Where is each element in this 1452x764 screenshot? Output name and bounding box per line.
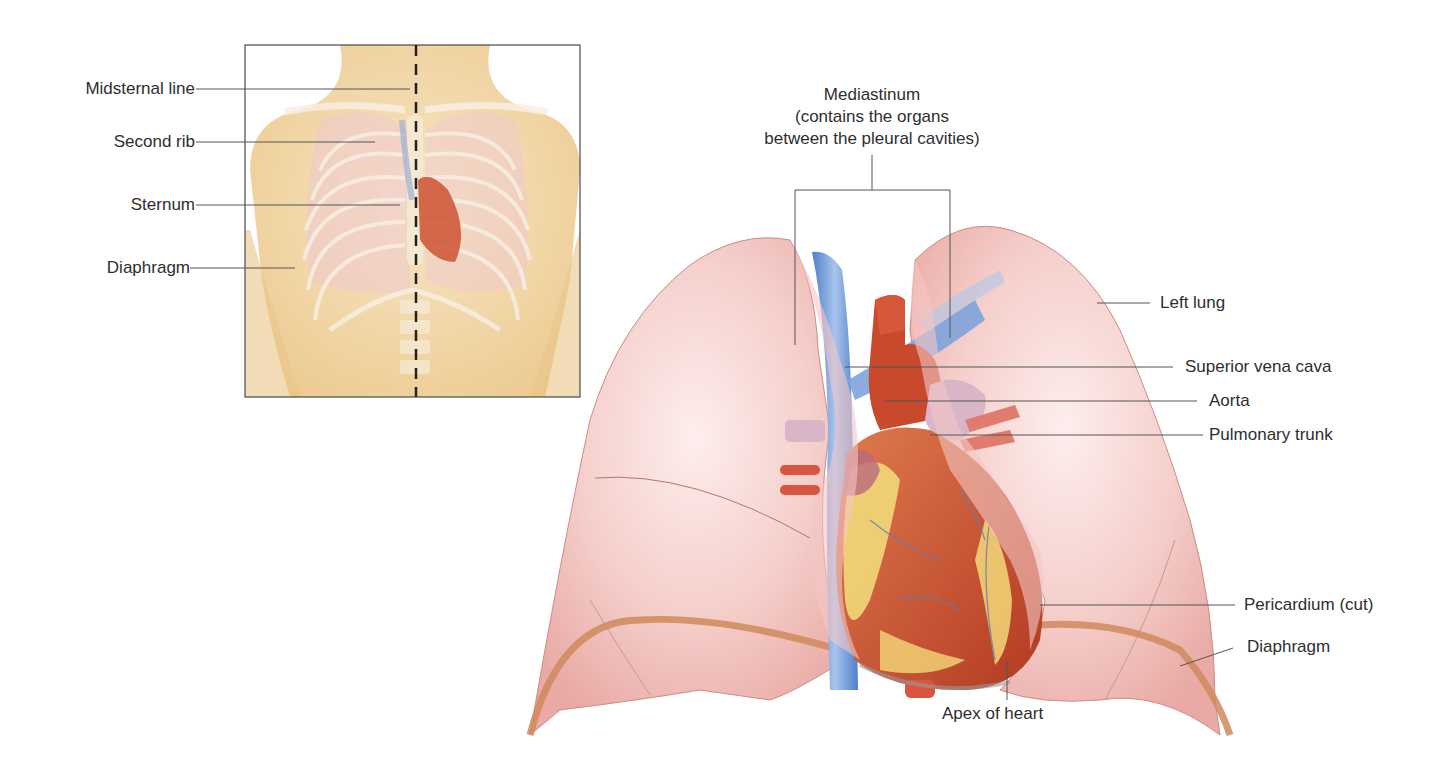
label-superior-vena-cava: Superior vena cava	[1185, 357, 1331, 377]
label-midsternal-line: Midsternal line	[85, 79, 195, 99]
label-diaphragm-main: Diaphragm	[1247, 637, 1330, 657]
label-pulmonary-trunk: Pulmonary trunk	[1209, 425, 1333, 445]
mediastinum-desc-line1: (contains the organs	[722, 106, 1022, 128]
label-second-rib: Second rib	[114, 132, 195, 152]
label-diaphragm-inset: Diaphragm	[107, 258, 190, 278]
label-apex-of-heart: Apex of heart	[942, 704, 1043, 724]
mediastinum-desc-line2: between the pleural cavities)	[722, 128, 1022, 150]
mediastinum-title: Mediastinum	[722, 84, 1022, 106]
torso-inset	[190, 45, 580, 397]
label-sternum: Sternum	[131, 195, 195, 215]
label-pericardium: Pericardium (cut)	[1244, 595, 1373, 615]
mediastinum-caption: Mediastinum (contains the organs between…	[722, 84, 1022, 150]
label-left-lung: Left lung	[1160, 293, 1225, 313]
label-aorta: Aorta	[1209, 391, 1250, 411]
